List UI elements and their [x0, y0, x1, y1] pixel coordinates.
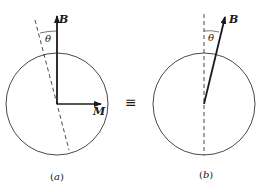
tilted-axis-dashed-a [35, 20, 69, 150]
m-label: M [92, 105, 106, 118]
caption-b: (b) [199, 169, 213, 180]
panel-b: B θ (b) [153, 13, 255, 180]
magnetic-field-diagram: B M θ (a) ≡ B θ (b) [0, 0, 270, 192]
b-label-b: B [228, 13, 238, 26]
equivalence-symbol: ≡ [125, 94, 137, 110]
panel-a: B M θ (a) [6, 13, 108, 182]
b-label-a: B [58, 13, 68, 26]
theta-label-b: θ [208, 32, 214, 43]
theta-label-a: θ [45, 33, 51, 44]
caption-a: (a) [50, 171, 64, 182]
b-vector-arrow-b [204, 17, 225, 104]
